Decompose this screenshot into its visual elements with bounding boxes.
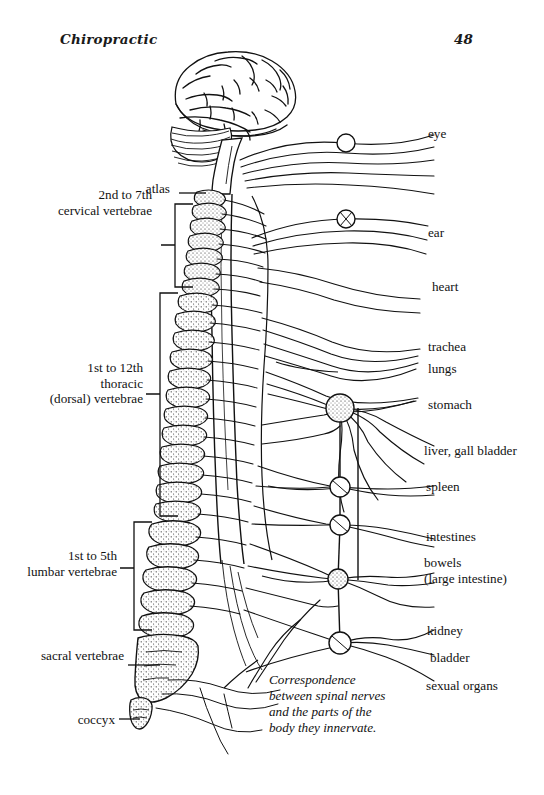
label-eye: eye	[428, 126, 446, 142]
ganglia-circles	[326, 134, 355, 654]
label-liver-gall-bladder: liver, gall bladder	[424, 443, 517, 459]
label-lumbar-vertebrae: 1st to 5th lumbar vertebrae	[10, 548, 117, 579]
sacrum	[135, 634, 199, 702]
brain	[175, 52, 295, 140]
lumbar-vertebrae	[139, 521, 201, 638]
chiropractic-spinal-nerve-page: Chiropractic 48	[0, 0, 544, 795]
label-heart: heart	[432, 279, 458, 295]
label-bowels: bowels (large intestine)	[424, 555, 507, 586]
label-bladder: bladder	[430, 650, 470, 666]
coccyx	[130, 698, 152, 729]
ganglion-cervical-upper-icon	[337, 134, 355, 152]
ganglion-celiac-icon	[326, 394, 354, 422]
label-coccyx: coccyx	[40, 712, 115, 728]
spinal-cord	[211, 194, 262, 670]
label-intestines: intestines	[426, 529, 476, 545]
vertebral-column	[130, 190, 227, 729]
label-cervical-vertebrae: 2nd to 7th cervical vertebrae	[30, 187, 152, 218]
ganglion-bowels-icon	[328, 569, 348, 589]
thoracic-vertebrae	[154, 293, 217, 522]
label-kidney: kidney	[427, 623, 463, 639]
label-ear: ear	[428, 225, 444, 241]
label-trachea: trachea	[428, 339, 466, 355]
label-lungs: lungs	[428, 361, 457, 377]
label-spleen: spleen	[426, 479, 460, 495]
cervical-vertebrae	[182, 190, 226, 297]
figure-caption: Correspondence between spinal nerves and…	[269, 672, 439, 736]
label-stomach: stomach	[428, 397, 472, 413]
label-sacral-vertebrae: sacral vertebrae	[14, 648, 124, 664]
label-thoracic-vertebrae: 1st to 12th thoracic (dorsal) vertebrae	[18, 360, 143, 407]
